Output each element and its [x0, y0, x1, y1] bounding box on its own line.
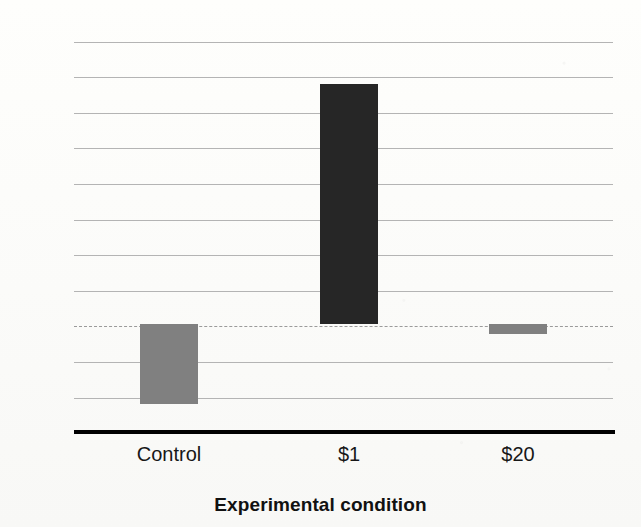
- x-axis-line: [74, 430, 615, 434]
- gridline-1.6: [74, 42, 613, 43]
- x-axis-title: Experimental condition: [0, 494, 641, 516]
- plot-area: 1.6 1.4 1.2 1.0 0.8 0.6 0.4 0.2 0.0 –0.2…: [74, 42, 613, 433]
- bar-1-dollar[interactable]: [320, 84, 378, 324]
- bar-20-dollar[interactable]: [489, 324, 547, 334]
- bar-control[interactable]: [140, 324, 198, 404]
- bar-chart-figure: 1.6 1.4 1.2 1.0 0.8 0.6 0.4 0.2 0.0 –0.2…: [0, 0, 641, 527]
- x-tick-label-control: Control: [137, 444, 201, 464]
- x-tick-label-1-dollar: $1: [338, 444, 360, 464]
- x-tick-label-20-dollar: $20: [501, 444, 534, 464]
- gridline-1.4: [74, 77, 613, 78]
